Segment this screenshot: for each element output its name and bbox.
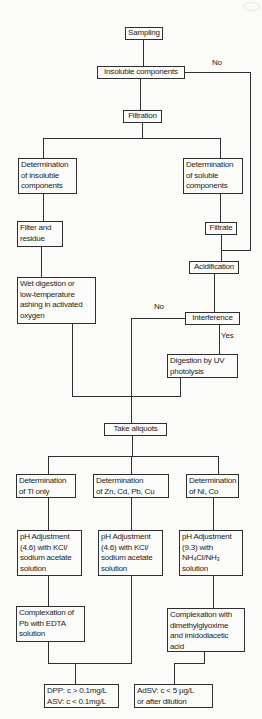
connector-line [221, 250, 251, 251]
connector-line [43, 138, 221, 139]
text-line: pH Adjustment [20, 532, 79, 543]
connector-line [174, 663, 175, 684]
connector-line [185, 72, 251, 73]
connector-line [213, 576, 214, 608]
connector-line [221, 235, 222, 261]
text-line: pH Adjustment [101, 532, 160, 543]
text-line: Complexation of [19, 608, 82, 619]
text-line: Digestion by UV [170, 356, 235, 367]
flowchart-canvas: No No Yes Sampling Insoluble components … [0, 0, 262, 719]
text-line: (9.3) with [182, 543, 240, 554]
edge-label-yes: Yes [220, 331, 234, 340]
text-line: Pb with EDTA [19, 619, 82, 630]
connector-line [131, 576, 132, 664]
connector-line [213, 498, 214, 530]
node-determination-tl: Determination of Tl only [16, 474, 76, 498]
connector-line [180, 378, 181, 397]
connector-line [48, 642, 49, 664]
text-line: components [21, 181, 74, 192]
text-line: and imidodiacetic [170, 631, 242, 642]
text-line: of soluble [186, 171, 240, 182]
node-determination-zn-cd-pb-cu: Determination of Zn, Cd, Pb, Cu [93, 474, 169, 498]
connector-line [43, 138, 44, 158]
text-line: NH₄Cl/NH₃ [182, 553, 240, 564]
node-filter-and-residue: Filter and residue [17, 221, 63, 247]
text-line: Filter and [20, 223, 60, 234]
connector-line [250, 72, 251, 251]
text-line: Wet digestion or [20, 279, 93, 290]
text-line: solution [20, 564, 79, 575]
node-acidification: Acidification [189, 261, 239, 274]
connector-line [72, 324, 73, 397]
connector-line [48, 456, 49, 474]
text-line: sodium acetate [101, 553, 160, 564]
connector-line [131, 318, 132, 423]
text-line: ASV: c < 0.1mg/L [47, 697, 116, 708]
node-take-aliquots: Take aliquots [104, 423, 167, 436]
text-line: (4.6) with KCl/ [101, 543, 160, 554]
connector-line [132, 436, 133, 456]
node-filtration: Filtration [123, 110, 162, 123]
node-determination-insoluble: Determination of insoluble components [18, 158, 77, 194]
text-line: low-temperature [20, 290, 93, 301]
connector-line [142, 123, 143, 139]
connector-line [131, 498, 132, 530]
connector-line [218, 456, 219, 474]
node-insoluble-components: Insoluble components [97, 66, 185, 79]
node-determination-ni-co: Determination of Ni, Co [186, 474, 239, 498]
node-ph-adjust-zn: pH Adjustment (4.6) with KCl/ sodium ace… [98, 530, 163, 576]
text-line: DPP: c > 0.1mg/L [47, 686, 116, 697]
connector-line [214, 274, 215, 312]
node-determination-soluble: Determination of soluble components [183, 158, 243, 194]
connector-line [131, 318, 185, 319]
text-line: residue [20, 234, 60, 245]
node-filtrate: Filtrate [205, 222, 237, 235]
connector-line [41, 247, 42, 277]
connector-line [48, 456, 219, 457]
node-result-dpp-asv: DPP: c > 0.1mg/L ASV: c < 0.1mg/L [44, 684, 119, 708]
text-line: of Zn, Cd, Pb, Cu [96, 487, 166, 498]
connector-line [48, 576, 49, 606]
connector-line [75, 663, 76, 684]
text-line: Determination [21, 160, 74, 171]
connector-line [43, 194, 44, 221]
edge-label-no: No [153, 302, 165, 311]
text-line: solution [19, 629, 82, 640]
connector-line [48, 498, 49, 530]
text-line: AdSV: c < 5 µg/L [137, 686, 210, 697]
text-line: solution [101, 564, 160, 575]
text-line: of insoluble [21, 171, 74, 182]
node-wet-digestion: Wet digestion or low-temperature ashing … [17, 277, 96, 324]
text-line: Determination [189, 476, 236, 487]
node-ph-adjust-ni: pH Adjustment (9.3) with NH₄Cl/NH₃ solut… [179, 530, 243, 576]
node-complexation-edta: Complexation of Pb with EDTA solution [16, 606, 85, 642]
text-line: ashing in activated [20, 300, 93, 311]
node-complexation-dmg: Complexation with dimethylglyoxime and i… [167, 608, 245, 652]
text-line: Determination [19, 476, 73, 487]
text-line: sodium acetate [20, 553, 79, 564]
node-interference: Interference [185, 312, 240, 325]
connector-line [220, 138, 221, 158]
text-line: Complexation with [170, 610, 242, 621]
connector-line [131, 456, 132, 474]
node-sampling: Sampling [125, 27, 163, 40]
node-digestion-uv: Digestion by UV photolysis [167, 354, 238, 378]
connector-line [140, 79, 141, 110]
text-line: components [186, 181, 240, 192]
text-line: oxygen [20, 311, 93, 322]
text-line: solution [182, 564, 240, 575]
text-line: of Ni, Co [189, 487, 236, 498]
text-line: Determination [96, 476, 166, 487]
scan-artifact [243, 2, 260, 11]
node-ph-adjust-tl: pH Adjustment (4.6) with KCl/ sodium ace… [17, 530, 82, 576]
node-result-adsv: AdSV: c < 5 µg/L or after dilution [134, 684, 213, 708]
text-line: Determination [186, 160, 240, 171]
text-line: photolysis [170, 367, 235, 378]
text-line: acid [170, 642, 242, 653]
connector-line [72, 396, 181, 397]
text-line: or after dilution [137, 697, 210, 708]
connector-line [174, 663, 205, 664]
text-line: (4.6) with KCl/ [20, 543, 79, 554]
text-line: pH Adjustment [182, 532, 240, 543]
connector-line [220, 194, 221, 222]
